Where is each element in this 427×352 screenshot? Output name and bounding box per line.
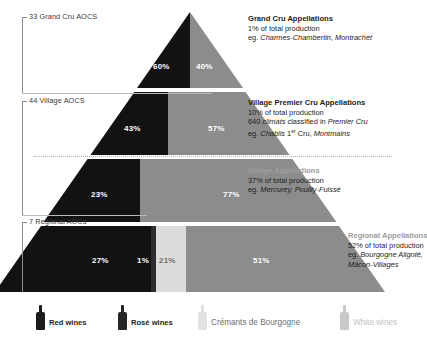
bracket-label-grand-cru: 33 Grand Cru AOCS	[29, 12, 97, 21]
wine-bottle-icon	[340, 305, 349, 330]
tier4-red-percent: 27%	[92, 256, 109, 265]
bracket-line	[22, 17, 23, 93]
legend-item-rose[interactable]: Rosé wines	[118, 305, 173, 330]
bracket-line	[22, 101, 23, 215]
eg-montmains: Montmains	[314, 129, 350, 138]
legend-item-cremant[interactable]: Crémants de Bourgogne	[198, 305, 300, 330]
tier3-white-percent: 77%	[223, 190, 240, 199]
tier1-red-percent: 60%	[153, 62, 170, 71]
wine-bottle-icon	[118, 305, 127, 330]
legend-item-white[interactable]: White wines	[340, 305, 397, 330]
bracket-label-regional: 7 Regional AOCs	[29, 217, 86, 226]
legend-label-rose: Rosé wines	[131, 318, 173, 330]
village-examples: eg. Mercurey, Pouilly-Fuissé	[248, 185, 341, 195]
legend-label-cremant: Crémants de Bourgogne	[211, 318, 300, 330]
eg-prefix: eg.	[248, 129, 260, 138]
village-divider-dotted-line	[34, 156, 392, 157]
tier3-red-percent: 23%	[91, 190, 108, 199]
legend-item-red[interactable]: Red wines	[36, 305, 87, 330]
rule-under-village	[22, 215, 147, 216]
tier-grand-cru	[137, 12, 243, 88]
grand-cru-examples: eg. Charmes-Chambertin, Montrachet	[248, 33, 372, 43]
premier-cru-production: 10% of total production	[248, 108, 368, 118]
legend-label-white: White wines	[353, 318, 397, 330]
regional-production: 52% of total production	[348, 241, 427, 251]
premier-cru-heading: Village Premier Cru Appellations	[248, 98, 368, 108]
eg-value: Charmes-Chambertin, Montrachet	[260, 33, 372, 42]
wine-bottle-icon	[198, 305, 207, 330]
grand-cru-production: 1% of total production	[248, 24, 372, 34]
eg-prefix: eg.	[348, 250, 360, 259]
bracket-line	[22, 222, 23, 292]
classified-in: classified in	[285, 117, 327, 126]
tier-regional	[0, 226, 385, 292]
tier2-red-percent: 43%	[124, 124, 141, 133]
tier4-white-percent: 51%	[253, 256, 270, 265]
description-grand-cru: Grand Cru Appellations 1% of total produ…	[248, 14, 372, 43]
premier-cru-climats: 640 climats classified in Premier Cru	[248, 117, 368, 127]
description-premier-cru: Village Premier Cru Appellations 10% of …	[248, 98, 368, 139]
legend-label-red: Red wines	[49, 318, 87, 330]
eg-prefix: eg.	[248, 185, 260, 194]
climats-count: 640	[248, 117, 262, 126]
rule-under-grand-cru	[22, 93, 212, 94]
wine-bottle-icon	[36, 305, 45, 330]
eg-cru-tail: Cru,	[296, 129, 314, 138]
regional-heading: Regional Appellations	[348, 231, 427, 241]
tier4-cremant-percent: 21%	[159, 256, 176, 265]
tier4-rose-percent: 1%	[137, 256, 149, 265]
grand-cru-heading: Grand Cru Appellations	[248, 14, 372, 24]
regional-examples-1: eg. Bourgogne Aligoté,	[348, 250, 427, 260]
eg-prefix: eg.	[248, 33, 260, 42]
premier-cru-examples: eg. Chablis 1er Cru, Montmains	[248, 127, 368, 139]
village-production: 37% of total production	[248, 176, 341, 186]
description-village: Village Appellations 37% of total produc…	[248, 166, 341, 195]
premier-cru-term: Premier Cru	[328, 117, 368, 126]
climats-word: climats	[262, 117, 285, 126]
tier4-segment-rose	[151, 226, 156, 292]
eg-chablis: Chablis	[260, 129, 285, 138]
tier1-segment-white	[190, 12, 243, 88]
eg-value: Mercurey, Pouilly-Fuissé	[260, 185, 340, 194]
tier1-white-percent: 40%	[196, 62, 213, 71]
eg-value-2: Mâcon-Villages	[348, 260, 398, 269]
tier1-segment-red	[137, 12, 190, 88]
description-regional: Regional Appellations 52% of total produ…	[348, 231, 427, 269]
tier2-white-percent: 57%	[208, 124, 225, 133]
village-heading: Village Appellations	[248, 166, 341, 176]
eg-value-1: Bourgogne Aligoté,	[360, 250, 423, 259]
bracket-label-village: 44 Village AOCS	[29, 96, 85, 105]
regional-examples-2: Mâcon-Villages	[348, 260, 427, 270]
legend: Red wines Rosé wines Crémants de Bourgog…	[0, 300, 426, 352]
